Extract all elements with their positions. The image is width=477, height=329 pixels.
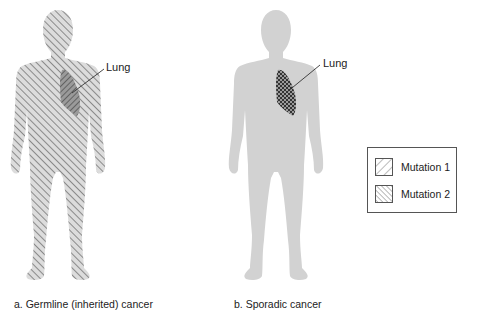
legend-label: Mutation 1 (401, 161, 450, 173)
legend-label: Mutation 2 (401, 188, 450, 200)
germline-figure (11, 10, 105, 280)
body-silhouette-solid (229, 10, 323, 280)
sporadic-figure (229, 10, 323, 280)
legend: Mutation 1 Mutation 2 (367, 147, 457, 213)
caption-germline: a. Germline (inherited) cancer (14, 298, 153, 310)
mutation-2-swatch-icon (375, 185, 393, 203)
lung-label-b: Lung (323, 57, 347, 69)
mutation-1-swatch-icon (375, 158, 393, 176)
body-silhouette-hatched (11, 10, 105, 280)
lung-label-a: Lung (106, 61, 130, 73)
caption-sporadic: b. Sporadic cancer (234, 298, 322, 310)
